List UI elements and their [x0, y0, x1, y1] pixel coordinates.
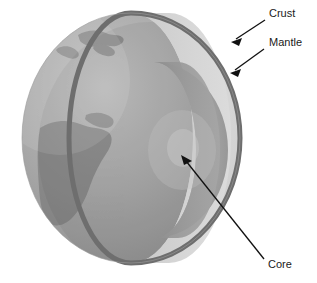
label-core: Core: [268, 258, 292, 270]
mantle-arrow-line: [235, 49, 264, 70]
crust-arrow: [231, 20, 265, 46]
earth-cutaway-diagram: Crust Mantle Core: [0, 0, 317, 283]
label-crust: Crust: [269, 7, 295, 19]
label-mantle: Mantle: [269, 36, 302, 48]
mantle-arrow: [230, 49, 264, 77]
crust-arrow-line: [236, 20, 265, 39]
earth-diagram-svg: Crust Mantle Core: [0, 0, 317, 283]
